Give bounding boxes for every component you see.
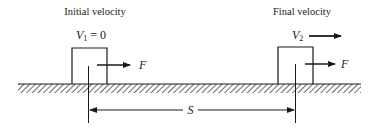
ground [18, 84, 361, 93]
final-velocity-caption: Final velocity [273, 6, 332, 17]
displacement-label: S [188, 103, 194, 117]
final-force-label: F [340, 57, 349, 71]
work-energy-diagram: Initial velocity V1= 0 F Final velocity … [0, 0, 371, 134]
velocity-value: = 0 [90, 28, 106, 42]
ground-hatching [18, 84, 361, 93]
initial-velocity-label: V1= 0 [76, 28, 106, 43]
final-state: Final velocity V2 F [273, 6, 349, 123]
displacement-dimension: S [90, 103, 294, 117]
initial-block [72, 48, 107, 84]
initial-state: Initial velocity V1= 0 F [64, 6, 147, 123]
initial-velocity-caption: Initial velocity [64, 6, 126, 17]
diagram-canvas: Initial velocity V1= 0 F Final velocity … [0, 0, 371, 134]
final-velocity-label: V2 [292, 28, 303, 43]
velocity-subscript: 2 [299, 34, 303, 43]
initial-force-label: F [138, 58, 147, 72]
velocity-subscript: 1 [83, 34, 87, 43]
